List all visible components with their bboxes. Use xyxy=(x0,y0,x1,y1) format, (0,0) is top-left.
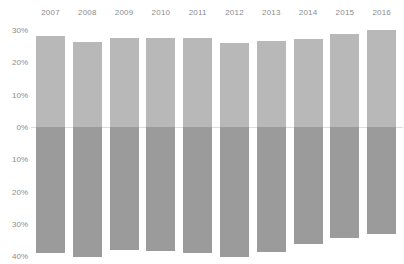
bar-2016-negative xyxy=(367,127,396,234)
plot-area xyxy=(0,0,404,264)
bar-2009-positive xyxy=(110,38,139,127)
bar-2011-positive xyxy=(183,38,212,127)
bar-2012-positive xyxy=(220,43,249,127)
bar-2013-positive xyxy=(257,41,286,127)
bar-2016-positive xyxy=(367,30,396,127)
bar-2015-positive xyxy=(330,34,359,127)
bar-2011-negative xyxy=(183,127,212,253)
bar-chart: 30%20%10%0%10%20%30%40% 2007200820092010… xyxy=(0,0,404,264)
bar-2014-positive xyxy=(294,39,323,127)
bar-2013-negative xyxy=(257,127,286,252)
bar-2008-negative xyxy=(73,127,102,257)
bar-2010-negative xyxy=(146,127,175,251)
bar-2007-negative xyxy=(36,127,65,253)
bar-2015-negative xyxy=(330,127,359,238)
bar-2014-negative xyxy=(294,127,323,244)
bar-2012-negative xyxy=(220,127,249,257)
bar-2008-positive xyxy=(73,42,102,127)
bar-2009-negative xyxy=(110,127,139,250)
bar-2007-positive xyxy=(36,36,65,127)
bar-2010-positive xyxy=(146,38,175,127)
